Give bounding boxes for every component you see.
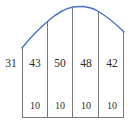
strip-height-label-1: 43	[23, 58, 47, 69]
edge-ordinate-label: 31	[2, 58, 20, 69]
strip-width-label-4: 10	[100, 100, 124, 111]
strip-width-label-2: 10	[48, 100, 72, 111]
strip-width-label-3: 10	[74, 100, 98, 111]
strip-width-label-1: 10	[23, 100, 47, 111]
area-approximation-figure: 31 43 50 48 42 10 10 10 10	[0, 0, 135, 123]
strip-height-label-3: 48	[74, 58, 98, 69]
strip-height-label-4: 42	[100, 58, 124, 69]
strip-height-label-2: 50	[48, 58, 72, 69]
